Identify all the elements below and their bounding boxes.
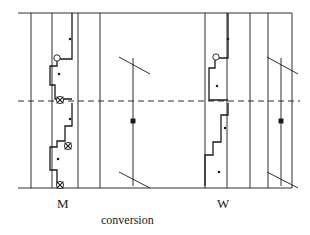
marker-dot-7 bbox=[69, 118, 71, 120]
step-series-W-lower-step bbox=[205, 103, 228, 186]
marker-dot-6 bbox=[58, 73, 60, 75]
marker-dot-9 bbox=[227, 38, 229, 40]
tract-top-tick-center-tract bbox=[119, 57, 150, 74]
step-series-group bbox=[50, 13, 228, 186]
marker-dot-5 bbox=[69, 38, 71, 40]
tract-bottom-tick-center-tract bbox=[119, 172, 150, 188]
conversion-diagram bbox=[0, 0, 310, 235]
markers-group bbox=[54, 38, 229, 189]
caption-conversion: conversion bbox=[101, 213, 154, 228]
marker-open-circle-4 bbox=[213, 54, 219, 60]
tract-top-tick-right-tract bbox=[267, 57, 298, 74]
axis-label-m: M bbox=[57, 196, 69, 212]
tract-bottom-tick-right-tract bbox=[267, 172, 298, 188]
marker-open-circle-0 bbox=[54, 55, 60, 61]
step-series-M-upper-step bbox=[50, 13, 72, 99]
marker-dot-11 bbox=[224, 127, 226, 129]
tract-node-right-tract bbox=[279, 119, 283, 123]
tract-node-center-tract bbox=[131, 119, 135, 123]
figure-root: M W conversion bbox=[0, 0, 310, 235]
marker-dot-12 bbox=[218, 171, 220, 173]
axis-label-w: W bbox=[217, 196, 229, 212]
marker-dot-10 bbox=[216, 85, 218, 87]
marker-dot-8 bbox=[57, 158, 59, 160]
